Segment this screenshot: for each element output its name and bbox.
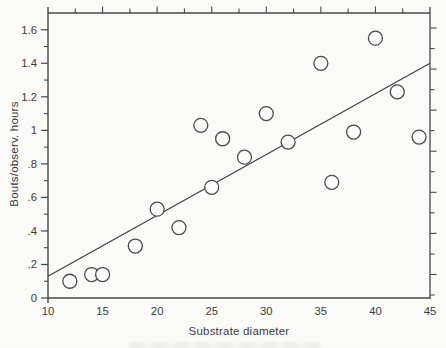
- y-axis-title: Bouts/observ. hours: [8, 74, 20, 234]
- x-tick-label: 20: [151, 305, 164, 317]
- y-tick-label: 1.6: [21, 24, 37, 36]
- y-tick-label: 1.4: [21, 57, 37, 69]
- y-tick-label: 1.2: [21, 91, 37, 103]
- data-point: [412, 130, 426, 144]
- data-point: [172, 221, 186, 235]
- data-point: [390, 85, 404, 99]
- y-tick-label: .8: [28, 158, 37, 170]
- data-point: [237, 150, 251, 164]
- x-tick-label: 30: [260, 305, 273, 317]
- y-tick-label: .4: [28, 225, 37, 237]
- y-tick-label: 0: [31, 292, 37, 304]
- faint-print-artifact: [130, 343, 320, 348]
- data-point: [194, 118, 208, 132]
- x-tick-label: 15: [96, 305, 109, 317]
- data-point: [128, 239, 142, 253]
- regression-line: [48, 63, 430, 276]
- x-tick-label: 25: [205, 305, 218, 317]
- data-point: [259, 107, 273, 121]
- data-point: [63, 274, 77, 288]
- x-tick-label: 35: [315, 305, 328, 317]
- x-tick-label: 45: [424, 305, 437, 317]
- y-tick-label: 1: [31, 124, 37, 136]
- data-point: [314, 56, 328, 70]
- x-tick-label: 40: [369, 305, 382, 317]
- y-tick-label: .2: [28, 258, 37, 270]
- data-point: [325, 175, 339, 189]
- data-point: [96, 268, 110, 282]
- x-axis-title: Substrate diameter: [0, 325, 446, 337]
- data-point: [205, 180, 219, 194]
- data-point: [281, 135, 295, 149]
- x-tick-label: 10: [42, 305, 55, 317]
- data-point: [216, 132, 230, 146]
- data-point: [150, 202, 164, 216]
- data-point: [347, 125, 361, 139]
- data-point: [368, 31, 382, 45]
- y-tick-label: .6: [28, 191, 37, 203]
